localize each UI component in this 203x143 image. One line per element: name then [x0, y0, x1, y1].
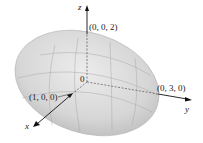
- x-intercept-label: (1, 0, 0): [29, 93, 58, 102]
- ellipsoid-figure: z (0, 0, 2) 0 (1, 0, 0) (0, 3, 0) y x: [0, 0, 203, 143]
- z-intercept-label: (0, 0, 2): [89, 23, 118, 32]
- y-axis-label: y: [185, 105, 189, 114]
- x-axis-label: x: [25, 122, 29, 131]
- z-axis-label: z: [78, 3, 82, 12]
- origin-label: 0: [80, 75, 85, 84]
- y-intercept-label: (0, 3, 0): [157, 84, 186, 93]
